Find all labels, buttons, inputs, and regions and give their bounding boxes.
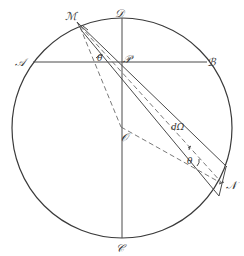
radius-om xyxy=(80,27,121,127)
label-p: 𝒫 xyxy=(123,53,134,66)
radius-on xyxy=(121,127,221,183)
label-m: ℳ xyxy=(65,10,79,23)
geometry-diagram: 𝒜 ℬ 𝒞 𝒟 ℳ 𝒩 𝒫 𝒪 θ θ dΩ xyxy=(0,0,244,256)
label-b: ℬ xyxy=(207,56,217,69)
label-theta-m: θ xyxy=(97,53,103,63)
cone-axis xyxy=(80,26,222,183)
label-domega: dΩ xyxy=(171,122,185,132)
label-theta-n: θ xyxy=(187,156,193,166)
label-o: 𝒪 xyxy=(121,131,131,144)
label-n: 𝒩 xyxy=(226,179,240,192)
theta-n-arc xyxy=(197,159,199,166)
cone-edge-upper xyxy=(77,22,227,167)
cone-edge-lower xyxy=(82,31,219,196)
label-c: 𝒞 xyxy=(116,242,127,255)
label-a: 𝒜 xyxy=(15,56,29,69)
